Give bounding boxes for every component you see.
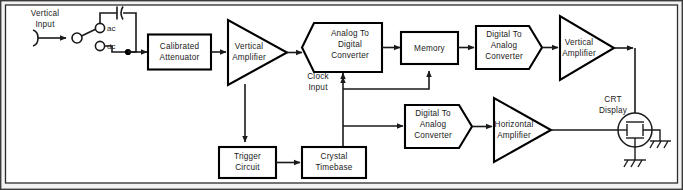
crt-label-line1: CRT — [604, 95, 621, 104]
vamp1-label-line2: Amplifier — [232, 53, 266, 62]
hamp-label-line2: Amplifier — [497, 131, 531, 140]
switch-label-ac: ac — [107, 24, 115, 33]
oscilloscope-block-diagram: Vertical Input ac dc Calibrated Attenuat… — [0, 0, 683, 190]
hamp-label-line1: Horizontal — [495, 120, 534, 129]
attenuator-label-line2: Attenuator — [160, 53, 200, 62]
clock-input-label-line1: Clock — [307, 72, 329, 81]
trigger-label-line2: Circuit — [235, 163, 260, 172]
timebase-label-line1: Crystal — [321, 152, 348, 161]
trigger-label-line1: Trigger — [234, 152, 261, 161]
vamp2-label-line2: Amplifier — [562, 49, 596, 58]
block-diagram-canvas: Vertical Input ac dc Calibrated Attenuat… — [0, 0, 683, 190]
dac-bottom-label-line2: Analog — [420, 120, 447, 129]
vertical-input-label-line2: Input — [35, 20, 55, 29]
switch-contact-ac[interactable] — [95, 23, 104, 32]
dac-bottom-label-line1: Digital To — [415, 109, 451, 118]
crt-label-line2: Display — [599, 106, 628, 115]
adc-label-line2: Digital — [338, 40, 362, 49]
clock-input-label-line2: Input — [308, 83, 328, 92]
dac-bottom-label-line3: Converter — [414, 131, 452, 140]
timebase-label-line2: Timebase — [315, 163, 352, 172]
attenuator-label-line1: Calibrated — [160, 42, 200, 51]
vamp2-label-line1: Vertical — [565, 38, 593, 47]
switch-common-pole[interactable] — [72, 33, 82, 43]
vamp1-label-line1: Vertical — [235, 42, 263, 51]
switch-contact-dc[interactable] — [95, 41, 104, 50]
memory-label-line1: Memory — [414, 44, 445, 53]
adc-label-line1: Analog To — [331, 29, 369, 38]
dac-top-label-line3: Converter — [485, 52, 523, 61]
dac-top-label-line1: Digital To — [486, 30, 522, 39]
adc-label-line3: Converter — [331, 51, 369, 60]
dac-top-label-line2: Analog — [491, 41, 518, 50]
vertical-input-label-line1: Vertical — [31, 9, 59, 18]
